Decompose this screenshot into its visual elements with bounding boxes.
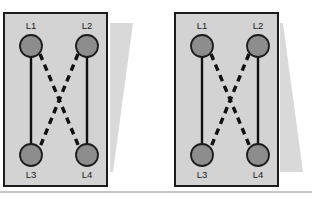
node-label-L2: L2 xyxy=(82,20,93,31)
node-label-L3: L3 xyxy=(26,169,37,180)
panel-left: L1 L2 L3 L4 xyxy=(4,13,133,186)
node-L2[interactable] xyxy=(247,35,269,57)
node-label-L4: L4 xyxy=(82,169,93,180)
wedge-right-shadow xyxy=(280,23,303,172)
figure-root: L1 L2 L3 L4 L1 L xyxy=(0,0,312,198)
node-L1[interactable] xyxy=(191,35,213,57)
wedge-left-shadow xyxy=(110,23,133,172)
node-L2[interactable] xyxy=(76,35,98,57)
node-L3[interactable] xyxy=(20,144,42,166)
two-panel-lattice-diagram: L1 L2 L3 L4 L1 L xyxy=(0,0,312,198)
panel-right: L1 L2 L3 L4 xyxy=(175,13,303,186)
node-label-L1: L1 xyxy=(26,20,37,31)
node-L4[interactable] xyxy=(247,144,269,166)
node-label-L4: L4 xyxy=(253,169,264,180)
node-label-L1: L1 xyxy=(197,20,208,31)
node-L1[interactable] xyxy=(20,35,42,57)
node-label-L3: L3 xyxy=(197,169,208,180)
node-label-L2: L2 xyxy=(253,20,264,31)
node-L4[interactable] xyxy=(76,144,98,166)
node-L3[interactable] xyxy=(191,144,213,166)
